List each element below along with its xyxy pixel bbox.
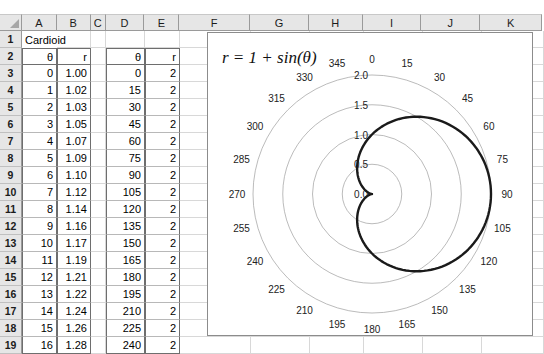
grid-cell-C9[interactable] [91,167,106,184]
row-header-10[interactable]: 10 [0,184,22,201]
cell-a8-theta[interactable]: 5 [22,150,57,167]
cell-a7-theta[interactable]: 4 [22,133,57,150]
cell-e12-r[interactable]: 2 [145,218,180,235]
row-header-17[interactable]: 17 [0,303,22,320]
column-header-e[interactable]: E [144,14,179,31]
cell-b6-r[interactable]: 1.05 [57,116,91,133]
row-header-12[interactable]: 12 [0,218,22,235]
row-header-19[interactable]: 19 [0,337,22,354]
cell-d17-theta[interactable]: 210 [106,303,145,320]
column-header-i[interactable]: I [363,14,422,31]
cell-e7-r[interactable]: 2 [145,133,180,150]
grid-cell-G19[interactable] [251,337,310,354]
cell-b4-r[interactable]: 1.02 [57,82,91,99]
grid-cell-J19[interactable] [423,337,482,354]
cell-e4-r[interactable]: 2 [145,82,180,99]
cell-e13-r[interactable]: 2 [145,235,180,252]
cell-e6-r[interactable]: 2 [145,116,180,133]
cell-b13-r[interactable]: 1.17 [57,235,91,252]
cell-b3-r[interactable]: 1.00 [57,65,91,82]
row-header-9[interactable]: 9 [0,167,22,184]
grid-cell-C11[interactable] [91,201,106,218]
cell-b17-r[interactable]: 1.24 [57,303,91,320]
grid-cell-C2[interactable] [91,48,106,65]
cell-e8-r[interactable]: 2 [145,150,180,167]
cell-b18-r[interactable]: 1.26 [57,320,91,337]
cell-d15-theta[interactable]: 180 [106,269,145,286]
row-header-11[interactable]: 11 [0,201,22,218]
grid-cell-C16[interactable] [91,286,106,303]
cell-d11-theta[interactable]: 120 [106,201,145,218]
cell-a19-theta[interactable]: 16 [22,337,57,354]
grid-cell-C3[interactable] [91,65,106,82]
row-header-5[interactable]: 5 [0,99,22,116]
cell-b11-r[interactable]: 1.14 [57,201,91,218]
cell-b19-r[interactable]: 1.28 [57,337,91,354]
cell-d3-theta[interactable]: 0 [106,65,145,82]
cell-d12-theta[interactable]: 135 [106,218,145,235]
cell-b15-r[interactable]: 1.21 [57,269,91,286]
cell-b2-r-header[interactable]: r [57,48,91,65]
cell-e16-r[interactable]: 2 [145,286,180,303]
cell-d5-theta[interactable]: 30 [106,99,145,116]
grid-cell-K19[interactable] [482,337,544,354]
grid-cell-C18[interactable] [91,320,106,337]
grid-cell-C13[interactable] [91,235,106,252]
cell-e18-r[interactable]: 2 [145,320,180,337]
cell-b16-r[interactable]: 1.22 [57,286,91,303]
cell-e3-r[interactable]: 2 [145,65,180,82]
cell-a12-theta[interactable]: 9 [22,218,57,235]
cell-e19-r[interactable]: 2 [145,337,180,354]
cell-b8-r[interactable]: 1.09 [57,150,91,167]
cell-a16-theta[interactable]: 13 [22,286,57,303]
grid-cell-C15[interactable] [91,269,106,286]
grid-cell-C4[interactable] [91,82,106,99]
cell-e15-r[interactable]: 2 [145,269,180,286]
cell-a10-theta[interactable]: 7 [22,184,57,201]
cell-d7-theta[interactable]: 60 [106,133,145,150]
cell-d13-theta[interactable]: 150 [106,235,145,252]
cell-d14-theta[interactable]: 165 [106,252,145,269]
cell-b7-r[interactable]: 1.07 [57,133,91,150]
row-header-18[interactable]: 18 [0,320,22,337]
row-header-7[interactable]: 7 [0,133,22,150]
row-header-13[interactable]: 13 [0,235,22,252]
cell-d2-theta-header[interactable]: θ [106,48,145,65]
cell-e17-r[interactable]: 2 [145,303,180,320]
cell-d9-theta[interactable]: 90 [106,167,145,184]
cell-d19-theta[interactable]: 240 [106,337,145,354]
cell-a17-theta[interactable]: 14 [22,303,57,320]
grid-cell-D1[interactable] [106,31,145,48]
cell-a2-theta-header[interactable]: θ [22,48,57,65]
column-header-h[interactable]: H [309,14,363,31]
row-header-2[interactable]: 2 [0,48,22,65]
cell-a6-theta[interactable]: 3 [22,116,57,133]
cell-d16-theta[interactable]: 195 [106,286,145,303]
cell-e14-r[interactable]: 2 [145,252,180,269]
cell-d18-theta[interactable]: 225 [106,320,145,337]
cell-b14-r[interactable]: 1.19 [57,252,91,269]
grid-cell-C10[interactable] [91,184,106,201]
grid-cell-C14[interactable] [91,252,106,269]
row-header-4[interactable]: 4 [0,82,22,99]
column-header-j[interactable]: J [421,14,480,31]
cell-e10-r[interactable]: 2 [145,184,180,201]
cell-a3-theta[interactable]: 0 [22,65,57,82]
cell-b12-r[interactable]: 1.16 [57,218,91,235]
cell-a15-theta[interactable]: 12 [22,269,57,286]
grid-cell-C19[interactable] [91,337,106,354]
row-header-16[interactable]: 16 [0,286,22,303]
cell-d8-theta[interactable]: 75 [106,150,145,167]
row-header-14[interactable]: 14 [0,252,22,269]
grid-cell-C17[interactable] [91,303,106,320]
cell-a4-theta[interactable]: 1 [22,82,57,99]
column-header-f[interactable]: F [179,14,250,31]
grid-cell-C5[interactable] [91,99,106,116]
cell-d10-theta[interactable]: 105 [106,184,145,201]
row-header-6[interactable]: 6 [0,116,22,133]
column-header-b[interactable]: B [57,14,91,31]
cell-d4-theta[interactable]: 15 [106,82,145,99]
cell-e11-r[interactable]: 2 [145,201,180,218]
cell-a14-theta[interactable]: 11 [22,252,57,269]
cell-b5-r[interactable]: 1.03 [57,99,91,116]
